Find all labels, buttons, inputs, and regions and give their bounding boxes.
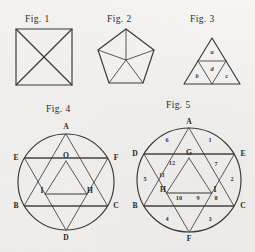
figure-5: Fig. 5 A D E G H I B C F 1 2 3 4 5 6 7 8… (124, 100, 255, 252)
label-O: O (63, 151, 69, 160)
label-I: I (214, 185, 217, 194)
midline-left (198, 61, 212, 84)
circumscribed-circle (18, 134, 114, 230)
radius-to-lower-right (126, 60, 143, 83)
radius-to-upper-right (126, 50, 154, 60)
label-B: B (132, 201, 137, 210)
label-F: F (187, 234, 192, 243)
figure-5-caption: Fig. 5 (166, 100, 191, 110)
figure-1-caption: Fig. 1 (25, 14, 50, 24)
midline-right (212, 61, 226, 84)
figure-2-drawing (85, 14, 167, 92)
label-a: a (210, 48, 214, 55)
figure-4-caption: Fig. 4 (46, 104, 71, 114)
label-d: d (210, 65, 214, 72)
label-D: D (63, 233, 69, 242)
figure-4-drawing: A E F O I H B C D (2, 104, 130, 252)
label-A: A (63, 122, 69, 131)
region-number-7: 7 (214, 160, 217, 167)
figure-1-drawing (0, 14, 88, 92)
inner-left-edge (45, 161, 66, 194)
label-H: H (87, 186, 93, 195)
figure-5-drawing: A D E G H I B C F 1 2 3 4 5 6 7 8 9 10 1… (124, 100, 255, 252)
label-G: G (186, 148, 192, 157)
label-A: A (186, 117, 192, 126)
upward-triangle (24, 134, 107, 206)
figure-3-caption: Fig. 3 (190, 14, 215, 24)
figure-2: Fig. 2 (85, 14, 167, 92)
label-c: c (226, 72, 229, 79)
region-number-10: 10 (176, 194, 182, 201)
region-number-2: 2 (230, 175, 233, 182)
label-D: D (132, 149, 138, 158)
region-number-1: 1 (208, 136, 211, 143)
figure-2-caption: Fig. 2 (107, 14, 132, 24)
label-E: E (13, 153, 18, 162)
inner-right-edge (66, 161, 87, 194)
upward-triangle (144, 128, 234, 206)
figure-1: Fig. 1 (0, 14, 88, 92)
figure-3-drawing: a d b c (166, 14, 255, 92)
inner-right-edge (189, 158, 212, 193)
figure-4: Fig. 4 A E F O I H B C D (2, 104, 130, 252)
region-number-11: 11 (159, 171, 165, 178)
label-b: b (195, 72, 198, 79)
circumscribed-circle (137, 128, 241, 232)
label-B: B (13, 201, 18, 210)
label-E: E (240, 149, 245, 158)
region-number-9: 9 (196, 194, 199, 201)
region-number-8: 8 (214, 194, 217, 201)
region-number-5: 5 (143, 175, 146, 182)
region-number-12: 12 (169, 159, 175, 166)
radius-to-upper-left (98, 50, 126, 60)
label-F: F (114, 153, 119, 162)
label-C: C (113, 201, 118, 210)
region-number-4: 4 (165, 215, 169, 222)
label-C: C (240, 201, 245, 210)
label-I: I (41, 186, 44, 195)
figure-3: Fig. 3 a d b c (166, 14, 255, 92)
region-number-3: 3 (208, 215, 211, 222)
label-H: H (160, 185, 166, 194)
radius-to-lower-left (109, 60, 126, 83)
region-number-6: 6 (165, 136, 168, 143)
